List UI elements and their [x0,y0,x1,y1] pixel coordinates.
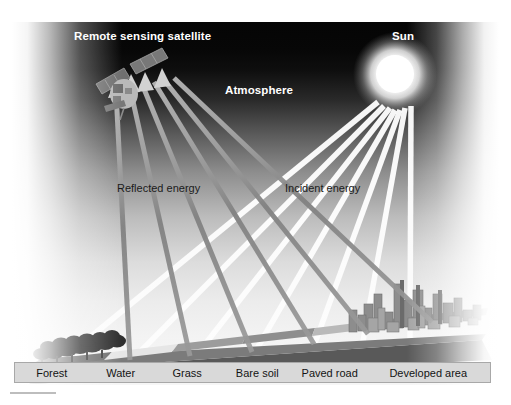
surface-label-bare-soil: Bare soil [222,367,293,379]
label-sun: Sun [392,30,414,42]
remote-sensing-figure: Remote sensing satellite Sun Atmosphere … [0,0,511,405]
label-atmosphere: Atmosphere [225,84,293,96]
diagram-scene: Remote sensing satellite Sun Atmosphere … [12,22,499,385]
reflected-ray-group [116,78,432,360]
label-reflected-energy: Reflected energy [117,182,200,194]
surface-label-water: Water [89,367,153,379]
surface-label-developed-area: Developed area [367,367,491,379]
reflected-energy-layer [12,22,499,385]
reflected-ray [116,92,130,360]
arrow-head-icon [154,68,171,88]
surface-label-grass: Grass [153,367,222,379]
surface-label-paved-road: Paved road [293,367,367,379]
reflected-ray [174,78,432,322]
label-remote-sensing-satellite: Remote sensing satellite [74,30,211,42]
surface-type-label-bar: ForestWaterGrassBare soilPaved roadDevel… [14,362,491,383]
label-incident-energy: Incident energy [285,182,360,194]
figure-corner-rule [10,392,56,394]
arrow-head-icon [137,72,154,92]
surface-label-forest: Forest [15,367,89,379]
